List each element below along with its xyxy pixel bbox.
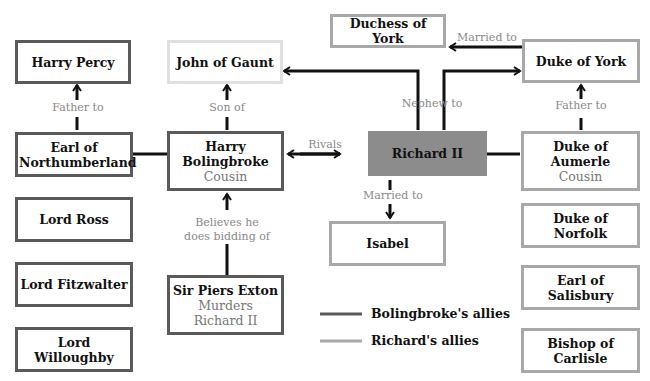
node-label: John of Gaunt — [176, 55, 274, 70]
node-label: Duchess of York — [333, 16, 443, 46]
edge-label-father-to: Father to — [50, 101, 106, 115]
node-label: Isabel — [366, 236, 408, 251]
node-duke-of-norfolk: Duke of Norfolk — [521, 203, 640, 248]
node-isabel: Isabel — [329, 221, 446, 266]
node-duke-of-aumerle: Duke of Aumerle Cousin — [521, 131, 640, 191]
edge-label-believes-he: Believes he — [183, 216, 271, 230]
node-duke-of-york: Duke of York — [522, 39, 640, 83]
node-john-of-gaunt: John of Gaunt — [167, 40, 283, 84]
node-harry-bolingbroke: Harry Bolingbroke Cousin — [167, 131, 284, 191]
edge-label-married-to: Married to — [363, 189, 419, 203]
edge-label-married-to: Married to — [457, 31, 517, 45]
node-sublabel: Cousin — [204, 169, 248, 184]
node-label: Harry Percy — [31, 55, 114, 70]
node-bishop-of-carlisle: Bishop of Carlisle — [521, 328, 640, 373]
node-lord-ross: Lord Ross — [15, 197, 133, 242]
edge-label-rivals: Rivals — [307, 138, 343, 152]
node-harry-percy: Harry Percy — [15, 40, 131, 84]
node-label: Earl of Salisbury — [541, 273, 621, 303]
node-earl-of-salisbury: Earl of Salisbury — [521, 265, 640, 310]
legend-bolingbroke-allies: Bolingbroke's allies — [371, 306, 510, 321]
node-sir-piers-exton: Sir Piers Exton Murders Richard II — [167, 275, 284, 335]
node-sublabel: Cousin — [559, 169, 603, 184]
node-richard-ii: Richard II — [368, 131, 487, 176]
edge-label-nephew-to: Nephew to — [401, 97, 463, 111]
node-earl-of-northumberland: Earl of Northumberland — [15, 132, 133, 177]
edge-label-father-to: Father to — [555, 99, 607, 113]
node-label: Duke of York — [536, 54, 626, 69]
node-lord-fitzwalter: Lord Fitzwalter — [15, 262, 133, 307]
node-label: Duke of Norfolk — [541, 211, 621, 241]
node-label: Sir Piers Exton — [173, 283, 278, 298]
node-label: Duke of Aumerle — [541, 139, 621, 169]
node-label: Lord Ross — [39, 212, 109, 227]
node-label: Lord Fitzwalter — [20, 277, 127, 292]
node-lord-willoughby: Lord Willoughby — [15, 327, 133, 372]
edge-label-does-bidding-of: does bidding of — [183, 230, 271, 244]
node-label: Richard II — [392, 146, 463, 161]
node-label: Harry Bolingbroke — [181, 139, 271, 169]
node-label: Earl of Northumberland — [19, 140, 129, 170]
edge-label-son-of: Son of — [206, 101, 248, 115]
legend-richard-allies: Richard's allies — [371, 333, 479, 348]
node-label: Lord Willoughby — [18, 335, 130, 365]
node-duchess-of-york: Duchess of York — [330, 14, 446, 48]
node-sublabel: Murders Richard II — [186, 298, 266, 328]
node-label: Bishop of Carlisle — [541, 336, 621, 366]
